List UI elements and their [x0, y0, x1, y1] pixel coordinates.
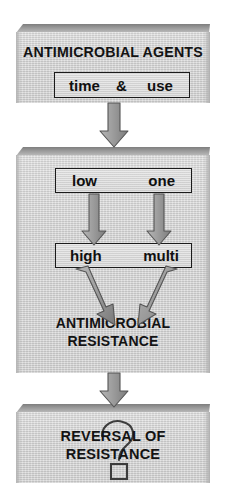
high-label: high — [70, 247, 102, 264]
outcome-box: high multi — [55, 243, 192, 268]
reversal-of-resistance-panel: REVERSAL OF RESISTANCE — [16, 404, 210, 483]
reversal-heading-line1: REVERSAL OF — [16, 428, 210, 445]
time-label: time — [69, 77, 100, 94]
one-label: one — [148, 172, 175, 189]
reversal-heading-line2: RESISTANCE — [16, 446, 210, 463]
antimicrobial-resistance-line1: ANTIMICROBIAL — [16, 315, 210, 332]
resistance-development-panel: low one high multi ANTIMICROBIAL RESISTA… — [16, 147, 210, 373]
arrow-agents-to-exposure — [100, 103, 128, 147]
multi-label: multi — [143, 247, 179, 264]
ampersand-label: & — [116, 77, 127, 94]
use-label: use — [147, 77, 173, 94]
arrow-resistance-to-reversal — [100, 373, 128, 407]
antimicrobial-resistance-line2: RESISTANCE — [16, 333, 210, 350]
panel-right-shade — [204, 32, 210, 103]
stage1-heading: ANTIMICROBIAL AGENTS — [16, 44, 210, 61]
panel-left-shade — [16, 32, 21, 103]
exposure-box: low one — [55, 168, 192, 193]
antimicrobial-agents-panel: ANTIMICROBIAL AGENTS time & use — [16, 24, 210, 103]
time-and-use-box: time & use — [54, 72, 190, 98]
low-label: low — [72, 172, 97, 189]
flow-diagram: ANTIMICROBIAL AGENTS time & use low one … — [0, 0, 240, 503]
